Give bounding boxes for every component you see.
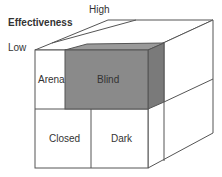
axis-title: Effectiveness bbox=[8, 17, 73, 28]
cell-arena: Arena bbox=[38, 74, 65, 85]
low-label: Low bbox=[8, 42, 27, 53]
high-label: High bbox=[89, 4, 110, 15]
cell-closed: Closed bbox=[49, 133, 80, 144]
effectiveness-cube-diagram: Effectiveness High Low Arena Blind Close… bbox=[0, 0, 222, 177]
cell-dark: Dark bbox=[111, 133, 133, 144]
cell-blind: Blind bbox=[97, 74, 119, 85]
